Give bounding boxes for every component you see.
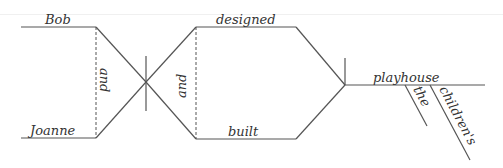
subject-bob: Bob [44,12,71,27]
verb-join-lower [296,85,345,139]
verb-conjunction: and [174,74,189,98]
modifier-the: the [410,83,433,109]
verb-join-upper [296,27,345,85]
subject-conjunction: and [97,68,112,92]
verb-built: built [228,124,259,139]
subject-joanne: Joanne [27,123,76,138]
verb-designed: designed [216,12,276,27]
direct-object-playhouse: playhouse [373,70,440,85]
sentence-diagram: Bob Joanne and designed built and playho… [0,0,503,168]
